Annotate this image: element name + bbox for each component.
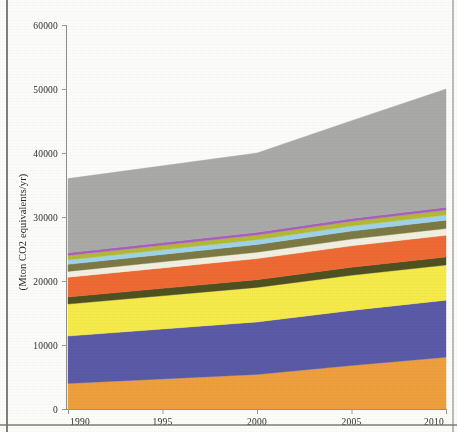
y-axis-title: (Mton CO2 equivalents/yr) xyxy=(17,173,29,290)
y-tick-label: 60000 xyxy=(33,21,58,31)
area-series-group xyxy=(68,89,446,409)
figure-container: (Mton CO2 equivalents/yr) 01000020000300… xyxy=(0,0,457,432)
y-axis: 0100002000030000400005000060000 xyxy=(33,21,67,415)
page-edge-bottom xyxy=(0,424,457,426)
y-tick-label: 50000 xyxy=(33,85,58,95)
y-tick-label: 10000 xyxy=(33,341,58,351)
y-tick-label: 20000 xyxy=(33,277,58,287)
y-tick-label: 30000 xyxy=(33,213,58,223)
stacked-area-chart: (Mton CO2 equivalents/yr) 01000020000300… xyxy=(0,0,457,432)
y-tick-label: 0 xyxy=(53,405,58,415)
page-edge-left xyxy=(6,0,8,432)
y-tick-label: 40000 xyxy=(33,149,58,159)
page-edge-right xyxy=(452,0,454,432)
